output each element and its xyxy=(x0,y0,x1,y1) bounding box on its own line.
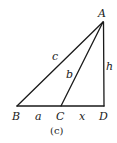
point-label-a: A xyxy=(97,7,106,20)
point-label-d: D xyxy=(98,110,108,123)
segment-ad xyxy=(104,22,105,106)
segment-label-h: h xyxy=(106,60,113,73)
segment-label-x: x xyxy=(79,110,86,123)
segment-ac xyxy=(61,22,103,106)
segment-label-a: a xyxy=(35,110,42,123)
figure-caption: (c) xyxy=(50,125,64,136)
point-label-b: B xyxy=(11,110,20,123)
point-label-c: C xyxy=(56,110,65,123)
triangle-diagram: A B C D c b h a x (c) xyxy=(0,0,117,143)
segment-ab xyxy=(17,22,103,106)
segment-label-b: b xyxy=(66,68,73,81)
segment-label-c: c xyxy=(52,50,58,63)
